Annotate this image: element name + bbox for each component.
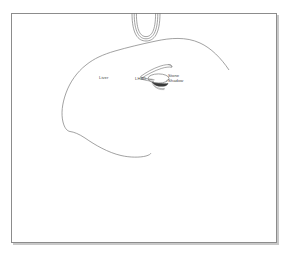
figure-root: Liver LHBD Stone Shadow [0, 0, 288, 258]
label-liver: Liver [99, 76, 108, 81]
illustration-canvas [0, 0, 288, 258]
dilated-bile-duct [148, 74, 169, 83]
label-lhbd: LHBD [135, 77, 146, 82]
label-stone-shadow-line2: Shadow [168, 78, 183, 83]
liver-contour [62, 38, 229, 157]
probe-arc-icon [132, 13, 160, 41]
label-stone-shadow: Stone Shadow [168, 74, 190, 83]
